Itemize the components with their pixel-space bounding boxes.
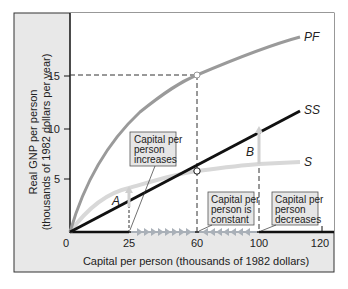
note-constant: Capital per person is constant: [199, 192, 260, 231]
pf-label: PF: [304, 30, 320, 44]
chart: 5 10 15 0 25 60 100 120 Capital per pers…: [0, 0, 348, 289]
ss-label: SS: [304, 103, 320, 117]
x-tick-label-120: 120: [311, 237, 329, 249]
pf-point-60: [194, 72, 200, 78]
svg-text:decreases: decreases: [275, 214, 321, 225]
svg-text:increases: increases: [134, 154, 177, 165]
point-b-label: B: [246, 145, 254, 159]
decrease-arrows: [199, 228, 257, 236]
steady-state-point: [194, 168, 200, 174]
origin-label: 0: [63, 237, 69, 249]
x-tick-label-25: 25: [123, 237, 135, 249]
x-tick-label-60: 60: [191, 237, 203, 249]
x-tick-label-100: 100: [250, 237, 268, 249]
y-axis-label-line2: (thousands of 1982 dollars per year): [40, 54, 52, 231]
svg-text:constant: constant: [211, 214, 249, 225]
point-a-label: A: [111, 194, 120, 208]
y-tick-label-5: 5: [54, 173, 60, 185]
x-axis-label: Capital per person (thousands of 1982 do…: [83, 255, 309, 267]
s-label: S: [304, 155, 312, 169]
y-axis-label-line1: Real GNP per person: [27, 90, 39, 195]
